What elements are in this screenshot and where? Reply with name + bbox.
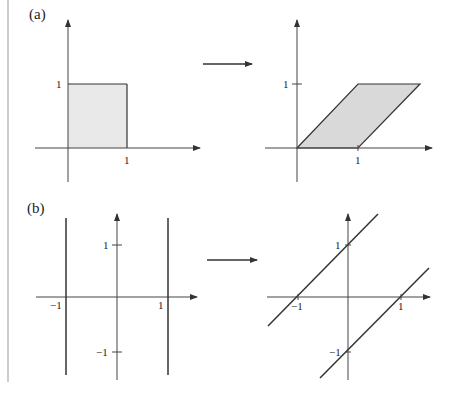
panel-b-before-plot: 1 −1 −1 1 xyxy=(36,214,197,380)
tick-label-y1: 1 xyxy=(56,78,62,90)
tick-label-x-pos1: 1 xyxy=(158,299,164,311)
sheared-line-lower xyxy=(320,268,429,378)
panel-a-label: (a) xyxy=(29,6,46,23)
tick-label-x-pos1: 1 xyxy=(398,300,404,312)
panel-a-after-plot: 1 1 xyxy=(265,20,432,182)
unit-square xyxy=(68,84,127,148)
tick-label-x1: 1 xyxy=(355,154,361,166)
tick-label-y-pos1: 1 xyxy=(103,239,109,251)
shear-transformation-diagram: (a) 1 1 1 1 (b) 1 −1 −1 1 xyxy=(0,0,453,393)
sheared-parallelogram xyxy=(297,84,420,148)
tick-label-y-neg1: −1 xyxy=(329,346,341,358)
tick-label-y-neg1: −1 xyxy=(96,346,108,358)
panel-a-before-plot: 1 1 xyxy=(35,20,200,182)
panel-b-after-plot: 1 −1 −1 1 xyxy=(267,214,430,380)
tick-label-y1: 1 xyxy=(283,78,289,90)
tick-label-y-pos1: 1 xyxy=(335,239,341,251)
tick-label-x1: 1 xyxy=(124,154,130,166)
tick-label-x-neg1: −1 xyxy=(291,300,303,312)
panel-b-label: (b) xyxy=(27,200,45,217)
tick-label-x-neg1: −1 xyxy=(50,299,62,311)
sheared-line-upper xyxy=(268,214,378,326)
